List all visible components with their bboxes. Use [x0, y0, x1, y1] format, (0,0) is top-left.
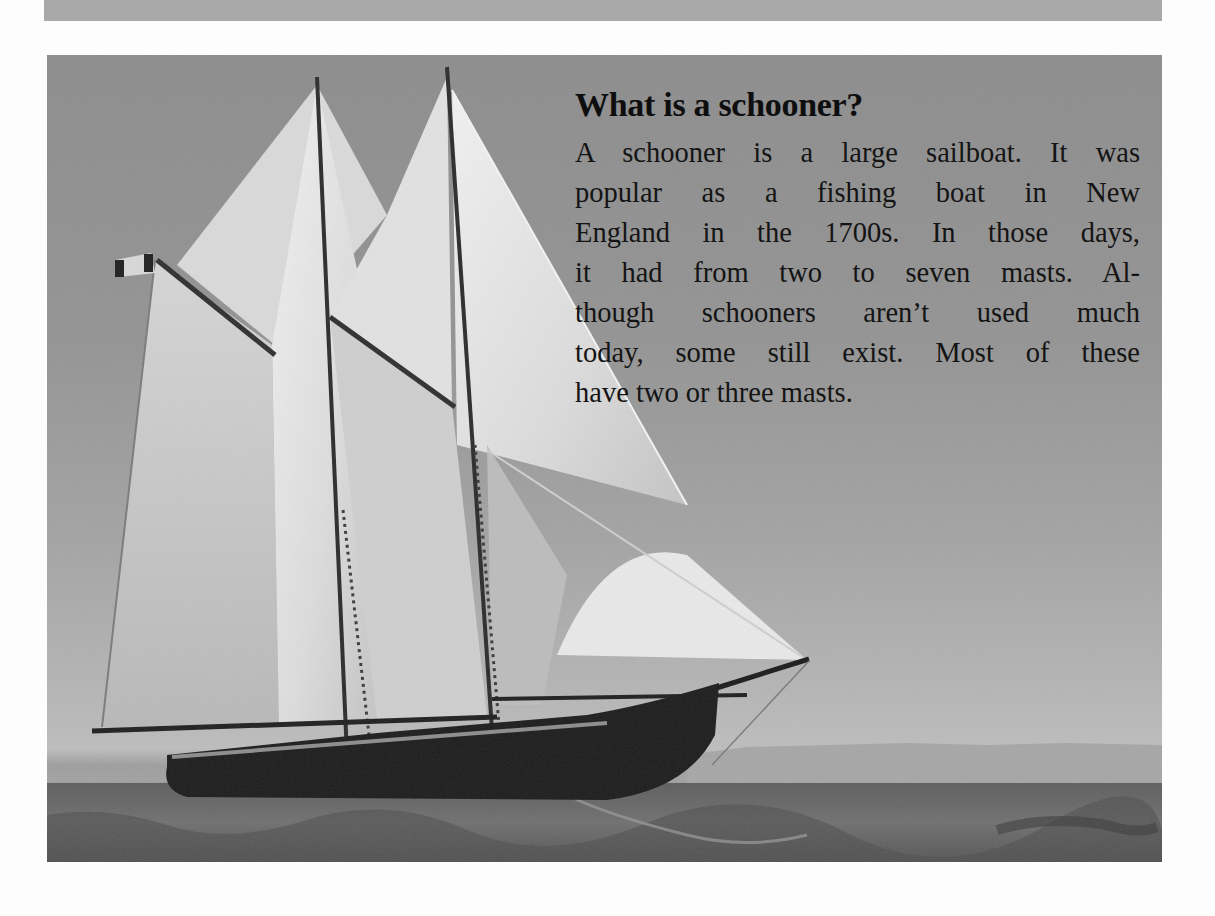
body-line-1: A schooner is a large sailboat. It was — [575, 133, 1140, 173]
article-heading: What is a schooner? — [575, 83, 1140, 127]
schooner-photo: What is a schooner? A schooner is a larg… — [47, 55, 1162, 862]
body-line-3: England in the 1700s. In those days, — [575, 213, 1140, 253]
body-line-7: have two or three masts. — [575, 373, 1140, 413]
body-line-4: it had from two to seven masts. Al- — [575, 253, 1140, 293]
body-line-5: though schooners aren’t used much — [575, 293, 1140, 333]
article-text-block: What is a schooner? A schooner is a larg… — [575, 83, 1140, 413]
article-body: A schooner is a large sailboat. It was p… — [575, 133, 1140, 413]
body-line-2: popular as a fishing boat in New — [575, 173, 1140, 213]
body-line-6: today, some still exist. Most of these — [575, 333, 1140, 373]
top-gray-band — [44, 0, 1162, 21]
